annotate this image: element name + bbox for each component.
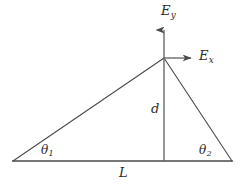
label-theta-1-subscript: 1 [48, 148, 53, 158]
label-theta-2: θ2 [199, 144, 211, 156]
triangle-right-side [164, 58, 232, 161]
label-e-y-base: E [161, 3, 171, 18]
label-e-x-subscript: x [209, 55, 214, 65]
label-theta-1: θ1 [41, 144, 53, 156]
label-theta-2-subscript: 2 [206, 148, 211, 158]
label-e-x-base: E [199, 48, 209, 63]
label-d: d [151, 102, 159, 115]
label-e-y-subscript: y [171, 10, 176, 20]
triangle-left-side [13, 58, 164, 161]
label-e-y: Ey [161, 4, 176, 17]
figure-container: Ey Ex d L θ1 θ2 [0, 0, 245, 185]
label-l: L [119, 166, 128, 179]
label-e-x: Ex [199, 49, 213, 62]
